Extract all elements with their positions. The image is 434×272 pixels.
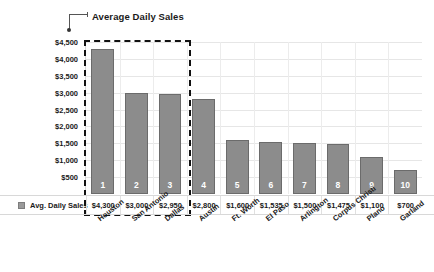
y-axis-tick-label: $2,000 xyxy=(55,122,78,131)
column-separator xyxy=(187,42,188,194)
y-axis-tick-label: $2,500 xyxy=(55,105,78,114)
column-separator xyxy=(355,42,356,194)
y-axis-tick-label: $4,000 xyxy=(55,54,78,63)
column-separator xyxy=(321,42,322,194)
chart-container: Average Daily Sales $4,500$4,000$3,500$3… xyxy=(0,0,434,272)
legend: Avg. Daily Sales xyxy=(18,196,88,214)
bar[interactable]: 2 xyxy=(125,93,148,194)
y-axis-tick-label: $3,500 xyxy=(55,71,78,80)
bar-rank-label: 6 xyxy=(260,180,281,190)
bar[interactable]: 7 xyxy=(293,143,316,194)
leader-line-icon xyxy=(66,12,88,32)
bar[interactable]: 5 xyxy=(226,140,249,194)
column-separator xyxy=(288,42,289,194)
bar-rank-label: 10 xyxy=(395,180,416,190)
bar[interactable]: 8 xyxy=(327,144,350,194)
y-axis-tick-label: $500 xyxy=(61,173,78,182)
plot-area: 12345678910 xyxy=(86,42,422,194)
column-separator xyxy=(388,42,389,194)
y-axis-tick-label: $1,000 xyxy=(55,156,78,165)
column-separator xyxy=(220,42,221,194)
y-axis-labels: $4,500$4,000$3,500$3,000$2,500$2,000$1,5… xyxy=(40,42,82,194)
bar-rank-label: 1 xyxy=(92,180,113,190)
y-axis-tick-label: $3,000 xyxy=(55,88,78,97)
column-separator xyxy=(120,42,121,194)
bar-rank-label: 3 xyxy=(160,180,181,190)
bar[interactable]: 3 xyxy=(159,94,182,194)
bar-rank-label: 8 xyxy=(328,180,349,190)
bar-rank-label: 4 xyxy=(193,180,214,190)
bar[interactable]: 1 xyxy=(91,49,114,194)
legend-swatch-icon xyxy=(18,202,25,209)
column-separator xyxy=(254,42,255,194)
y-axis-tick-label: $1,500 xyxy=(55,139,78,148)
bar[interactable]: 6 xyxy=(259,142,282,194)
bar-rank-label: 7 xyxy=(294,180,315,190)
legend-label: Avg. Daily Sales xyxy=(30,201,88,210)
bar-rank-label: 2 xyxy=(126,180,147,190)
bar[interactable]: 4 xyxy=(192,99,215,194)
column-separator xyxy=(153,42,154,194)
bar-rank-label: 5 xyxy=(227,180,248,190)
chart-title: Average Daily Sales xyxy=(92,11,184,22)
bar[interactable]: 10 xyxy=(394,170,417,194)
y-axis-tick-label: $4,500 xyxy=(55,38,78,47)
